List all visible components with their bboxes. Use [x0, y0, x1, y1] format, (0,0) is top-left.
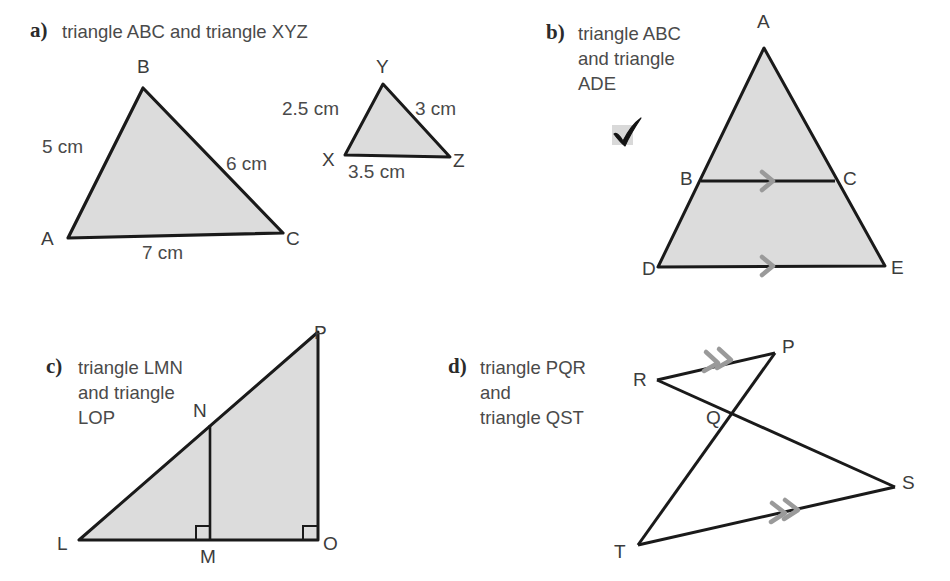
vertex-label-c-n: N	[193, 400, 207, 422]
vertex-label-d-p: P	[782, 336, 795, 358]
vertex-label-d-q: Q	[706, 407, 721, 429]
worksheet-canvas: a) triangle ABC and triangle XYZ B A C 5…	[0, 0, 950, 581]
side-label-xz: 3.5 cm	[348, 161, 405, 183]
figure-d-bowtie	[638, 349, 895, 545]
figure-a-triangle-xyz	[345, 84, 450, 157]
part-d-prompt: triangle PQR and triangle QST	[480, 355, 586, 430]
parallel-mark-ts	[771, 500, 798, 522]
segment-ts	[638, 487, 895, 545]
vertex-label-c-l: L	[57, 533, 68, 555]
vertex-label-b-d: D	[642, 258, 656, 280]
vertex-label-c-p: P	[314, 322, 327, 344]
vertex-label-z: Z	[453, 150, 465, 172]
vertex-label-b: B	[137, 56, 150, 78]
segment-rs	[657, 380, 895, 487]
vertex-label-y: Y	[376, 56, 389, 78]
part-c-prompt: triangle LMN and triangle LOP	[78, 355, 183, 430]
part-a-prompt: triangle ABC and triangle XYZ	[62, 19, 308, 44]
vertex-label-c: C	[286, 228, 300, 250]
vertex-label-a: A	[41, 228, 54, 250]
checkmark-icon	[612, 118, 641, 146]
part-b-prompt: triangle ABC and triangle ADE	[578, 21, 681, 96]
figure-b-triangle-ade	[658, 48, 885, 275]
side-label-bc: 6 cm	[226, 153, 267, 175]
side-label-xy: 2.5 cm	[282, 98, 339, 120]
part-a-marker: a)	[30, 18, 48, 43]
triangle-xyz-shape	[345, 84, 450, 157]
vertex-label-c-o: O	[323, 533, 338, 555]
vertex-label-b-e: E	[891, 257, 904, 279]
vertex-label-b-c: C	[843, 168, 857, 190]
triangle-ade-shape	[658, 48, 885, 267]
geometry-figures	[0, 0, 950, 581]
vertex-label-b-a: A	[757, 11, 770, 33]
side-label-yz: 3 cm	[415, 98, 456, 120]
vertex-label-c-m: M	[200, 546, 216, 568]
side-label-ab: 5 cm	[42, 136, 83, 158]
side-label-ac: 7 cm	[142, 242, 183, 264]
part-d-marker: d)	[448, 354, 467, 379]
part-b-marker: b)	[546, 20, 565, 45]
vertex-label-d-t: T	[614, 541, 626, 563]
vertex-label-x: X	[322, 149, 335, 171]
part-c-marker: c)	[46, 354, 62, 379]
vertex-label-d-r: R	[633, 369, 647, 391]
vertex-label-b-b: B	[680, 168, 693, 190]
parallel-mark-rp	[704, 349, 731, 371]
vertex-label-d-s: S	[902, 472, 915, 494]
